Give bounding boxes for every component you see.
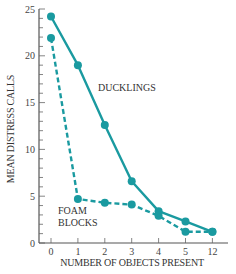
data-point — [128, 201, 136, 209]
data-point — [47, 12, 55, 20]
x-tick-label: 3 — [129, 246, 134, 257]
x-tick-label: 4 — [156, 246, 161, 257]
y-axis-title: MEAN DISTRESS CALLS — [5, 75, 16, 183]
x-tick-label: 1 — [75, 246, 80, 257]
data-point — [128, 177, 136, 185]
series-label-foam-line1: FOAM — [58, 205, 87, 216]
y-tick-label: 10 — [25, 144, 35, 155]
data-point — [47, 34, 55, 42]
data-point — [182, 217, 190, 225]
y-tick-label: 20 — [25, 50, 35, 61]
x-tick-label: 12 — [207, 246, 217, 257]
line-chart: 0510152025 01234512 MEAN DISTRESS CALLS … — [0, 0, 236, 274]
y-axis: 0510152025 — [25, 4, 45, 249]
y-tick-label: 5 — [30, 191, 35, 202]
data-point — [101, 199, 109, 207]
data-point — [208, 228, 216, 236]
series-lines — [47, 12, 216, 235]
x-tick-label: 5 — [183, 246, 188, 257]
series-label-ducklings: DUCKLINGS — [98, 82, 156, 93]
data-point — [155, 212, 163, 220]
x-axis: 01234512 — [39, 238, 228, 257]
x-tick-label: 2 — [102, 246, 107, 257]
data-point — [74, 195, 82, 203]
data-point — [74, 61, 82, 69]
y-tick-label: 0 — [30, 238, 35, 249]
x-tick-label: 0 — [49, 246, 54, 257]
x-axis-title: NUMBER OF OBJECTS PRESENT — [60, 257, 204, 268]
series-label-foam-line2: BLOCKS — [58, 217, 97, 228]
data-point — [182, 228, 190, 236]
data-point — [101, 121, 109, 129]
y-tick-label: 25 — [25, 4, 35, 15]
y-tick-label: 15 — [25, 97, 35, 108]
